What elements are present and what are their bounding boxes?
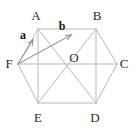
geometry-figure: A B C D E F O a b xyxy=(0,0,134,129)
hexagon-edge-EF xyxy=(18,64,38,103)
centre-label-O: O xyxy=(69,51,78,64)
vertex-label-C: C xyxy=(120,57,129,70)
vector-label-a: a xyxy=(20,29,26,41)
vertex-label-D: D xyxy=(90,111,99,124)
vector-label-b: b xyxy=(59,20,66,32)
hexagon-edge-CD xyxy=(96,64,117,103)
hexagon-edge-BC xyxy=(96,29,117,64)
vertex-label-E: E xyxy=(34,111,42,124)
vertex-label-A: A xyxy=(31,9,40,22)
hexagon-diagram-svg xyxy=(0,0,134,129)
vertex-label-B: B xyxy=(93,9,102,22)
vertex-label-F: F xyxy=(5,57,12,70)
